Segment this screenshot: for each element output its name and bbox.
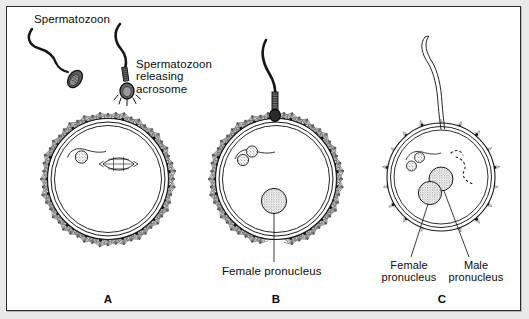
- label-spermatozoon-releasing-acrosome: Spermatozoon releasing acrosome: [136, 58, 212, 95]
- panel-letter-c: C: [427, 293, 457, 305]
- label-spermatozoon: Spermatozoon: [34, 13, 110, 25]
- figure-container: Spermatozoon Spermatozoon releasing acro…: [0, 0, 529, 319]
- polar-body-b-2: [237, 154, 248, 165]
- female-pronucleus-b: [261, 188, 286, 213]
- panel-letter-b: B: [261, 293, 291, 305]
- label-male-pronucleus-c: Male pronucleus: [447, 260, 505, 284]
- oolemma-b: [223, 126, 330, 233]
- sperm-midpiece-a: [122, 67, 129, 82]
- polar-body-c-1: [415, 153, 425, 163]
- polar-body-b-1: [246, 146, 257, 157]
- figure-frame: Spermatozoon Spermatozoon releasing acro…: [6, 6, 521, 311]
- sperm-midpiece-b: [270, 92, 281, 121]
- label-female-pronucleus-c: Female pronucleus: [378, 260, 440, 284]
- polar-body-c-2: [407, 161, 417, 171]
- penetrating-spermatozoon-b: [263, 40, 281, 121]
- panel-b: [208, 40, 345, 262]
- label-female-pronucleus-b: Female pronucleus: [222, 265, 322, 277]
- female-pronucleus-c: [418, 181, 441, 204]
- degenerating-sperm-tail-c: [422, 36, 445, 129]
- panel-letter-a: A: [93, 293, 123, 305]
- free-spermatozoon-a: [29, 29, 86, 90]
- oolemma-a: [55, 126, 162, 233]
- panel-c: [382, 36, 501, 257]
- polar-body-a-1: [75, 151, 87, 163]
